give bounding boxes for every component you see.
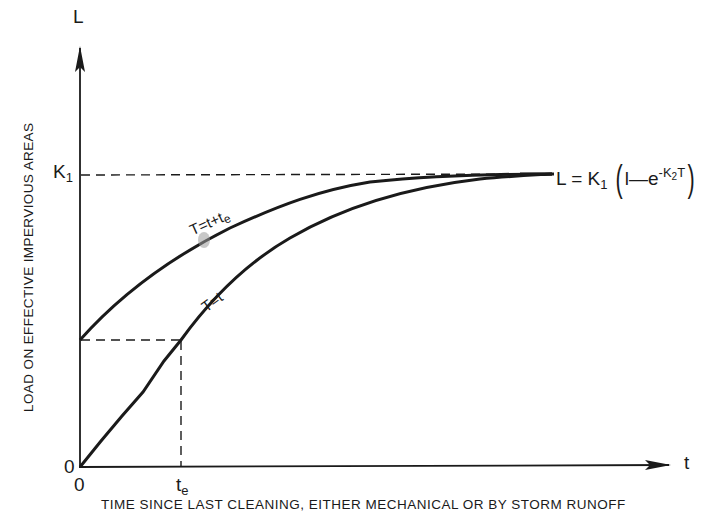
equation-coef: K xyxy=(588,168,601,189)
exp-suffix: T xyxy=(677,165,685,180)
k1-sub: 1 xyxy=(66,170,73,185)
y-axis-title: LOAD ON EFFECTIVE IMPERVIOUS AREAS xyxy=(21,123,36,412)
x-axis-title: TIME SINCE LAST CLEANING, EITHER MECHANI… xyxy=(101,497,626,511)
left-paren: ( xyxy=(615,158,622,200)
right-paren: ) xyxy=(687,158,694,200)
exp-prefix: -K xyxy=(659,165,672,180)
equation-equals: = xyxy=(571,168,582,189)
k1-main: K xyxy=(53,161,66,182)
curve-t-equals-t-plus-te xyxy=(80,174,552,340)
k1-tick-label: K1 xyxy=(53,161,73,185)
y-origin-label: 0 xyxy=(64,456,75,478)
curve-t-equals-t xyxy=(80,174,552,467)
equation-minus: — xyxy=(629,168,648,189)
equation-exponent: -K2T xyxy=(659,165,686,180)
x-axis-symbol: t xyxy=(684,452,689,474)
equation-coef-sub: 1 xyxy=(600,177,607,192)
y-axis-symbol: L xyxy=(73,6,84,28)
model-equation: L = K1 (l—e-K2T) xyxy=(556,158,697,200)
diagram-canvas xyxy=(0,0,708,511)
x-axis xyxy=(79,465,669,467)
te-tick-label: te xyxy=(176,474,189,498)
te-sub: e xyxy=(181,483,188,498)
x-origin-label: 0 xyxy=(74,474,85,496)
equation-lhs: L xyxy=(556,168,566,189)
equation-base: e xyxy=(648,168,659,189)
